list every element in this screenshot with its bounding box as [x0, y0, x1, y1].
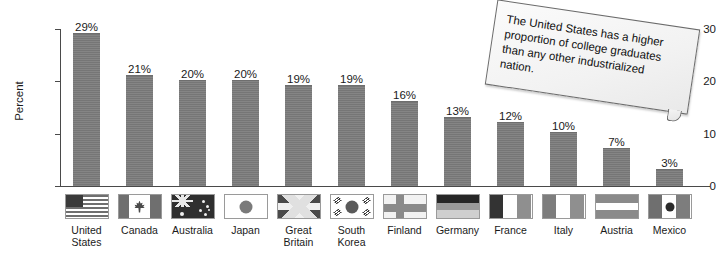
- flag-japan-icon: [224, 194, 268, 219]
- category-italy: Italy: [537, 194, 590, 236]
- bar: [550, 132, 577, 186]
- category-label: Finland: [378, 224, 431, 236]
- flag-united-states-icon: [65, 194, 109, 219]
- category-mexico: Mexico: [643, 194, 696, 236]
- bar-value-label: 3%: [643, 158, 696, 170]
- bar-value-label: 21%: [113, 64, 166, 76]
- category-canada: Canada: [113, 194, 166, 236]
- flag-finland-icon: [383, 194, 427, 219]
- category-austria: Austria: [590, 194, 643, 236]
- bar-value-label: 16%: [378, 90, 431, 102]
- bar: [603, 148, 630, 186]
- category-south-korea: South Korea: [325, 194, 378, 248]
- bar-value-label: 29%: [60, 22, 113, 34]
- bar-value-label: 20%: [219, 69, 272, 81]
- bar: [444, 117, 471, 186]
- bar: [126, 75, 153, 186]
- bar: [656, 169, 683, 186]
- category-united-states: United States: [60, 194, 113, 248]
- bar-value-label: 20%: [166, 69, 219, 81]
- bar: [73, 33, 100, 186]
- category-label: Germany: [431, 224, 484, 236]
- bar-value-label: 12%: [484, 111, 537, 123]
- category-label: Mexico: [643, 224, 696, 236]
- flag-mexico-icon: [648, 194, 692, 219]
- category-label: Italy: [537, 224, 590, 236]
- category-label: France: [484, 224, 537, 236]
- flag-great-britain-icon: [277, 194, 321, 219]
- category-label: Japan: [219, 224, 272, 236]
- flag-south-korea-icon: [330, 194, 374, 219]
- category-great-britain: Great Britain: [272, 194, 325, 248]
- bar: [285, 85, 312, 186]
- flag-italy-icon: [542, 194, 586, 219]
- flag-australia-icon: [171, 194, 215, 219]
- bar-value-label: 19%: [325, 74, 378, 86]
- category-label: Austria: [590, 224, 643, 236]
- flag-germany-icon: [436, 194, 480, 219]
- category-label: United States: [60, 224, 113, 248]
- category-japan: Japan: [219, 194, 272, 236]
- bar-value-label: 13%: [431, 106, 484, 118]
- y-tick-0: [55, 186, 61, 187]
- category-australia: Australia: [166, 194, 219, 236]
- flag-austria-icon: [595, 194, 639, 219]
- bar: [497, 122, 524, 186]
- bar-value-label: 19%: [272, 74, 325, 86]
- category-germany: Germany: [431, 194, 484, 236]
- flag-canada-icon: [118, 194, 162, 219]
- bar: [338, 85, 365, 186]
- bar: [179, 80, 206, 186]
- flag-france-icon: [489, 194, 533, 219]
- category-label: South Korea: [325, 224, 378, 248]
- bar-chart: Percent 30 20 10 0 29% 21% 20% 20% 19% 1…: [0, 0, 716, 256]
- bar-value-label: 10%: [537, 121, 590, 133]
- bar: [391, 101, 418, 186]
- category-label: Canada: [113, 224, 166, 236]
- category-finland: Finland: [378, 194, 431, 236]
- category-france: France: [484, 194, 537, 236]
- bar-value-label: 7%: [590, 137, 643, 149]
- x-axis-line: [60, 186, 710, 187]
- category-label: Australia: [166, 224, 219, 236]
- bar: [232, 80, 259, 186]
- category-label: Great Britain: [272, 224, 325, 248]
- y-axis-title: Percent: [13, 66, 25, 136]
